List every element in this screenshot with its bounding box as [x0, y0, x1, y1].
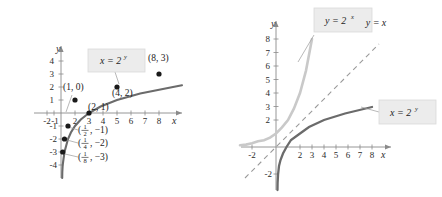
left-x-tick-label-8: 8 — [157, 116, 162, 126]
left-callout-base: x = 2 — [99, 55, 121, 66]
left-y-axis-label: y — [55, 43, 61, 54]
right-callout-exponent-y2x: x — [350, 13, 354, 20]
left-callout-exponent: y — [123, 53, 127, 60]
left-point-2-1 — [72, 97, 77, 102]
right-label-y-equals-x: y = x — [365, 17, 387, 28]
left-point-8-3 — [156, 71, 161, 76]
right-callout-y-equals-2-to-the-x: y = 2 x — [314, 8, 372, 32]
left-x-tick-label-5: 5 — [115, 116, 120, 126]
right-y-tick-label-2: 6 — [266, 61, 271, 71]
left-x-tick-label-6: 6 — [129, 116, 134, 126]
left-x-tick-label-7: 7 — [143, 116, 148, 126]
left-point-label-half-neg1: ( 1 2 , −1) — [78, 123, 108, 137]
left-y-tick-label-4: -1 — [50, 121, 58, 131]
right-x-tick-label-6: 7 — [358, 150, 363, 160]
right-axes — [241, 21, 391, 190]
left-y-tick-label-5: -2 — [50, 134, 58, 144]
right-x-tick-label-4: 5 — [334, 150, 339, 160]
left-point-label-eighth-neg3: ( 1 8 , −3) — [78, 150, 108, 164]
left-y-tick-label-0: 4 — [50, 56, 55, 66]
right-callout-base-x2y: x = 2 — [389, 107, 411, 118]
frac-tail-quarter: , −2) — [90, 138, 108, 149]
figure-two-graphs: -2 -1 2 3 4 5 6 7 8 4 3 2 1 -1 -2 -3 -4 … — [0, 0, 442, 197]
left-point-label-4-2: (4, 2) — [112, 88, 133, 99]
right-y-tick-label-0: 8 — [266, 34, 271, 44]
right-callout-base-y2x: y = 2 — [324, 15, 346, 26]
left-y-tick-label-1: 3 — [50, 69, 55, 79]
frac-tail-eighth: , −3) — [90, 152, 108, 163]
svg-text:(: ( — [78, 138, 81, 149]
right-graph-panel: -2 2 3 4 5 6 7 8 8 7 6 5 4 3 2 -2 y x — [221, 0, 442, 197]
svg-text:(: ( — [78, 125, 81, 136]
right-y-tick-label-5: 3 — [266, 102, 271, 112]
right-x-tick-label-2: 3 — [310, 150, 315, 160]
left-point-quarter-neg2 — [62, 136, 67, 141]
frac-tail-half: , −1) — [90, 125, 108, 136]
frac-denominator-quarter: 4 — [83, 143, 87, 150]
left-point-label-1-0: (1, 0) — [63, 82, 84, 93]
right-x-tick-label-5: 6 — [346, 150, 351, 160]
right-curve-x-equals-2-to-the-y — [278, 107, 373, 190]
frac-numerator-eighth: 1 — [83, 150, 86, 157]
left-y-tick-label-3: 1 — [50, 95, 55, 105]
left-point-label-quarter-neg2: ( 1 4 , −2) — [78, 136, 108, 150]
left-graph-svg: -2 -1 2 3 4 5 6 7 8 4 3 2 1 -1 -2 -3 -4 … — [0, 0, 221, 197]
right-x-tick-label-0: -2 — [248, 150, 256, 160]
right-x-axis-label: x — [380, 149, 386, 160]
x-axis-arrow — [176, 110, 182, 115]
frac-numerator-quarter: 1 — [83, 136, 86, 143]
left-y-tick-label-6: -3 — [50, 147, 58, 157]
right-y-tick-label-4: 4 — [266, 88, 271, 98]
right-y-axis-label: y — [270, 18, 276, 29]
svg-text:(: ( — [78, 152, 81, 163]
left-point-label-2-1: (2, 1) — [88, 102, 109, 113]
right-callout-exponent-x2y: y — [414, 105, 418, 112]
frac-numerator-half: 1 — [83, 123, 86, 130]
right-y-tick-label-3: 5 — [266, 75, 271, 85]
left-callout-x-equals-2-to-the-y: x = 2 y — [88, 49, 145, 72]
right-y-tick-label-6: 2 — [266, 115, 271, 125]
right-y-tick-label-1: 7 — [266, 48, 271, 58]
right-graph-svg: -2 2 3 4 5 6 7 8 8 7 6 5 4 3 2 -2 y x — [221, 0, 442, 197]
right-x-tick-label-3: 4 — [322, 150, 327, 160]
left-y-tick-label-2: 2 — [50, 82, 55, 92]
right-x-tick-label-1: 2 — [298, 150, 303, 160]
left-graph-panel: -2 -1 2 3 4 5 6 7 8 4 3 2 1 -1 -2 -3 -4 … — [0, 0, 221, 197]
left-y-tick-label-7: -4 — [50, 160, 58, 170]
right-y-tick-label-7: -2 — [265, 169, 273, 179]
frac-denominator-eighth: 8 — [83, 157, 86, 164]
x-axis-arrow — [385, 144, 391, 149]
left-point-eighth-neg3 — [60, 149, 65, 154]
left-point-half-neg1 — [65, 123, 70, 128]
right-x-tick-label-7: 8 — [370, 150, 375, 160]
left-x-axis-label: x — [171, 115, 177, 126]
left-point-label-8-3: (8, 3) — [148, 53, 169, 64]
right-callout-x-equals-2-to-the-y: x = 2 y — [379, 100, 436, 124]
